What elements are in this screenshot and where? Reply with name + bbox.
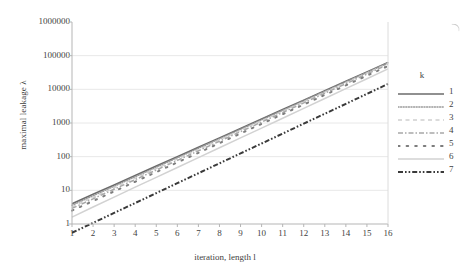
legend-entry-4[interactable]: 4 [398,124,466,137]
legend-swatch-3 [398,112,444,124]
x-tick-label: 5 [145,229,167,238]
x-tick-label: 2 [82,229,104,238]
x-tick-label: 1 [61,229,83,238]
x-tick-label: 9 [230,229,252,238]
legend-entry-6[interactable]: 6 [398,150,466,163]
legend-label-3: 3 [444,113,454,122]
legend-swatch-2 [398,99,444,111]
legend-entry-2[interactable]: 2 [398,98,466,111]
chart-legend: k 1234567 [398,70,466,176]
x-tick-label: 16 [377,229,399,238]
legend-swatch-1 [398,86,444,98]
legend-label-2: 2 [444,100,454,109]
x-tick-label: 3 [103,229,125,238]
x-tick-label: 7 [187,229,209,238]
legend-swatch-7 [398,164,444,176]
legend-label-7: 7 [444,165,454,174]
legend-label-5: 5 [444,139,454,148]
x-axis-title: iteration, length l [60,252,390,262]
x-tick-label: 11 [272,229,294,238]
legend-entry-3[interactable]: 3 [398,111,466,124]
x-tick-label: 12 [293,229,315,238]
legend-entries: 1234567 [398,85,466,176]
legend-swatch-5 [398,138,444,150]
x-tick-label: 14 [335,229,357,238]
legend-entry-1[interactable]: 1 [398,85,466,98]
x-tick-label: 13 [314,229,336,238]
x-tick-label: 8 [208,229,230,238]
legend-label-6: 6 [444,152,454,161]
legend-label-1: 1 [444,87,454,96]
x-tick-label: 10 [251,229,273,238]
legend-label-4: 4 [444,126,454,135]
x-tick-label: 15 [356,229,378,238]
legend-swatch-4 [398,125,444,137]
legend-entry-5[interactable]: 5 [398,137,466,150]
legend-swatch-6 [398,151,444,163]
chart-figure: maximal leakage λ 1101001000100001000001… [0,0,470,276]
legend-entry-7[interactable]: 7 [398,163,466,176]
legend-title: k [398,70,446,80]
x-tick-label: 6 [166,229,188,238]
x-tick-label: 4 [124,229,146,238]
